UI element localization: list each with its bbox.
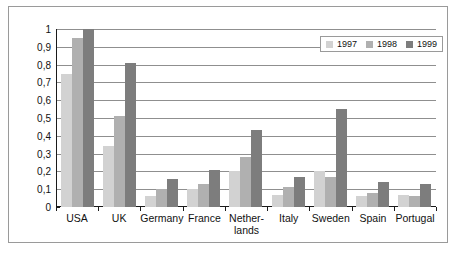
legend-item-1997: 1997 xyxy=(326,39,357,49)
x-axis-tick-mark xyxy=(394,207,395,211)
y-axis-tick-label: 0,5 xyxy=(37,113,51,124)
x-axis-tick-mark xyxy=(183,207,184,211)
bar-group xyxy=(56,29,98,207)
bar-group xyxy=(183,29,225,207)
y-axis-tick-label: 0,1 xyxy=(37,184,51,195)
bar-1998 xyxy=(114,116,125,207)
x-axis-tick-labels: USAUKGermanyFranceNether-landsItalySwede… xyxy=(56,212,436,242)
x-axis-tick-mark xyxy=(267,207,268,211)
bar-1997 xyxy=(272,195,283,207)
bar-1997 xyxy=(356,196,367,207)
y-axis-tick-label: 0,7 xyxy=(37,77,51,88)
bar-group xyxy=(352,29,394,207)
y-axis-tick-label: 0,8 xyxy=(37,59,51,70)
bar-1999 xyxy=(167,179,178,207)
legend-swatch-icon xyxy=(406,41,413,48)
bar-1998 xyxy=(72,38,83,207)
bar-groups xyxy=(56,29,436,207)
bar-group xyxy=(140,29,182,207)
x-axis-tick-mark xyxy=(436,207,437,211)
bar-group xyxy=(225,29,267,207)
bar-1999 xyxy=(83,29,94,207)
bar-1999 xyxy=(209,170,220,207)
x-axis-tick-mark xyxy=(309,207,310,211)
y-axis-tick-label: 0,3 xyxy=(37,148,51,159)
x-axis-tick-label: Spain xyxy=(352,212,394,242)
bar-1998 xyxy=(198,184,209,207)
bar-1999 xyxy=(251,130,262,207)
chart-frame: 10,90,80,70,60,50,40,30,20,10 USAUKGerma… xyxy=(8,6,448,243)
bar-1997 xyxy=(398,195,409,207)
x-axis-tick-label: USA xyxy=(56,212,98,242)
bar-1997 xyxy=(314,171,325,207)
bar-1997 xyxy=(61,74,72,208)
plot-area xyxy=(56,29,436,207)
bar-1999 xyxy=(125,63,136,207)
bar-1999 xyxy=(420,184,431,207)
bar-1998 xyxy=(367,193,378,207)
y-axis-tick-label: 0,4 xyxy=(37,130,51,141)
x-axis-tick-label: Sweden xyxy=(310,212,352,242)
legend-label: 1999 xyxy=(417,39,437,49)
bar-1997 xyxy=(145,196,156,207)
bar-1999 xyxy=(294,177,305,207)
x-axis-tick-mark xyxy=(140,207,141,211)
legend-item-1998: 1998 xyxy=(366,39,397,49)
x-axis-tick-label: Italy xyxy=(268,212,310,242)
legend-label: 1998 xyxy=(377,39,397,49)
y-axis-tick-label: 0 xyxy=(45,202,51,213)
chart-legend: 199719981999 xyxy=(320,36,443,52)
bar-group xyxy=(98,29,140,207)
y-axis-tick-labels: 10,90,80,70,60,50,40,30,20,10 xyxy=(9,29,51,207)
legend-item-1999: 1999 xyxy=(406,39,437,49)
x-axis-tick-label: UK xyxy=(98,212,140,242)
x-axis-tick-label: Germany xyxy=(140,212,183,242)
bar-1999 xyxy=(378,182,389,207)
bar-1997 xyxy=(229,171,240,207)
x-axis-tick-mark xyxy=(352,207,353,211)
bar-group xyxy=(394,29,436,207)
legend-label: 1997 xyxy=(337,39,357,49)
bar-1997 xyxy=(187,189,198,207)
bar-1998 xyxy=(325,177,336,207)
bar-group xyxy=(309,29,351,207)
bar-1999 xyxy=(336,109,347,207)
y-axis-tick-label: 0,6 xyxy=(37,95,51,106)
bar-1998 xyxy=(283,187,294,207)
legend-swatch-icon xyxy=(326,41,333,48)
x-axis-tick-label: France xyxy=(183,212,225,242)
x-axis-tick-mark xyxy=(225,207,226,211)
y-axis-tick-label: 0,2 xyxy=(37,166,51,177)
x-axis-tick-label: Nether-lands xyxy=(226,212,268,242)
bar-1998 xyxy=(409,196,420,207)
y-axis-tick-label: 0,9 xyxy=(37,41,51,52)
x-axis-tick-label: Portugal xyxy=(394,212,436,242)
bar-1997 xyxy=(103,146,114,207)
legend-swatch-icon xyxy=(366,41,373,48)
x-axis-tick-mark xyxy=(98,207,99,211)
y-axis-tick-label: 1 xyxy=(45,24,51,35)
bar-group xyxy=(267,29,309,207)
bar-1998 xyxy=(156,189,167,207)
bar-1998 xyxy=(240,157,251,207)
x-axis-tick-mark xyxy=(56,207,57,211)
